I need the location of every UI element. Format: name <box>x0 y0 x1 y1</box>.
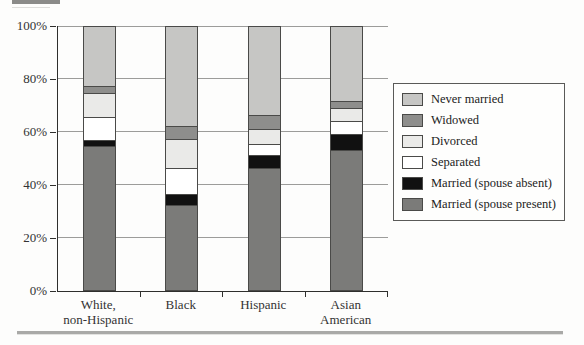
legend-swatch-separated <box>402 156 423 169</box>
y-tick-80 <box>50 79 56 80</box>
legend-item-divorced: Divorced <box>402 131 564 152</box>
y-tick-100 <box>50 26 56 27</box>
bar-asian-american <box>330 26 363 291</box>
segment-black-widowed <box>166 127 197 140</box>
legend: Never marriedWidowedDivorcedSeparatedMar… <box>393 83 565 221</box>
legend-label-never-married: Never married <box>431 92 504 107</box>
segment-white-non-hispanic-never-married <box>84 27 115 87</box>
legend-label-divorced: Divorced <box>431 134 478 149</box>
segment-white-non-hispanic-married-spouse-present <box>84 147 115 290</box>
y-tick-label-60: 60% <box>5 124 47 140</box>
segment-black-divorced <box>166 140 197 169</box>
legend-swatch-married-spouse-present <box>402 198 423 211</box>
legend-item-never-married: Never married <box>402 89 564 110</box>
segment-hispanic-married-spouse-present <box>249 169 280 290</box>
segment-hispanic-never-married <box>249 27 280 116</box>
segment-white-non-hispanic-divorced <box>84 94 115 118</box>
legend-swatch-widowed <box>402 114 423 127</box>
y-tick-20 <box>50 238 56 239</box>
legend-item-widowed: Widowed <box>402 110 564 131</box>
segment-black-married-spouse-present <box>166 206 197 290</box>
bar-white-non-hispanic <box>83 26 116 291</box>
y-tick-40 <box>50 185 56 186</box>
x-category-label-line: Asian <box>286 297 406 312</box>
marital-status-chart-figure: 100%80%60%40%20%0% White,non-HispanicBla… <box>0 0 584 345</box>
segment-black-married-spouse-absent <box>166 195 197 206</box>
segment-asian-american-divorced <box>331 109 362 122</box>
legend-label-married-spouse-absent: Married (spouse absent) <box>431 176 552 191</box>
x-category-label-line: non-Hispanic <box>38 312 158 327</box>
legend-swatch-never-married <box>402 93 423 106</box>
segment-asian-american-married-spouse-absent <box>331 135 362 151</box>
segment-black-never-married <box>166 27 197 127</box>
legend-label-separated: Separated <box>431 155 480 170</box>
legend-swatch-married-spouse-absent <box>402 177 423 190</box>
segment-hispanic-separated <box>249 145 280 156</box>
top-rule-shadow <box>12 7 50 8</box>
segment-asian-american-never-married <box>331 27 362 102</box>
x-tick-4 <box>387 292 388 297</box>
bottom-rule <box>17 331 563 335</box>
segment-white-non-hispanic-widowed <box>84 87 115 94</box>
legend-item-separated: Separated <box>402 152 564 173</box>
segment-hispanic-widowed <box>249 116 280 130</box>
y-tick-label-40: 40% <box>5 177 47 193</box>
y-tick-60 <box>50 132 56 133</box>
segment-black-separated <box>166 169 197 195</box>
top-rule <box>12 0 60 4</box>
segment-hispanic-married-spouse-absent <box>249 156 280 169</box>
plot-area <box>57 26 388 292</box>
bar-hispanic <box>248 26 281 291</box>
x-tick-1 <box>140 292 141 297</box>
segment-asian-american-married-spouse-present <box>331 151 362 290</box>
y-tick-label-80: 80% <box>5 71 47 87</box>
legend-item-married-spouse-absent: Married (spouse absent) <box>402 173 564 194</box>
y-tick-label-100: 100% <box>5 18 47 34</box>
x-category-label-asian-american: AsianAmerican <box>286 297 406 327</box>
x-tick-2 <box>222 292 223 297</box>
y-tick-0 <box>50 291 56 292</box>
segment-asian-american-widowed <box>331 102 362 109</box>
x-tick-3 <box>305 292 306 297</box>
y-tick-label-20: 20% <box>5 230 47 246</box>
legend-item-married-spouse-present: Married (spouse present) <box>402 194 564 215</box>
segment-asian-american-separated <box>331 122 362 135</box>
bar-black <box>165 26 198 291</box>
segment-white-non-hispanic-separated <box>84 118 115 141</box>
x-category-label-line: American <box>286 312 406 327</box>
segment-hispanic-divorced <box>249 130 280 145</box>
legend-label-widowed: Widowed <box>431 113 479 128</box>
legend-label-married-spouse-present: Married (spouse present) <box>431 197 556 212</box>
legend-swatch-divorced <box>402 135 423 148</box>
